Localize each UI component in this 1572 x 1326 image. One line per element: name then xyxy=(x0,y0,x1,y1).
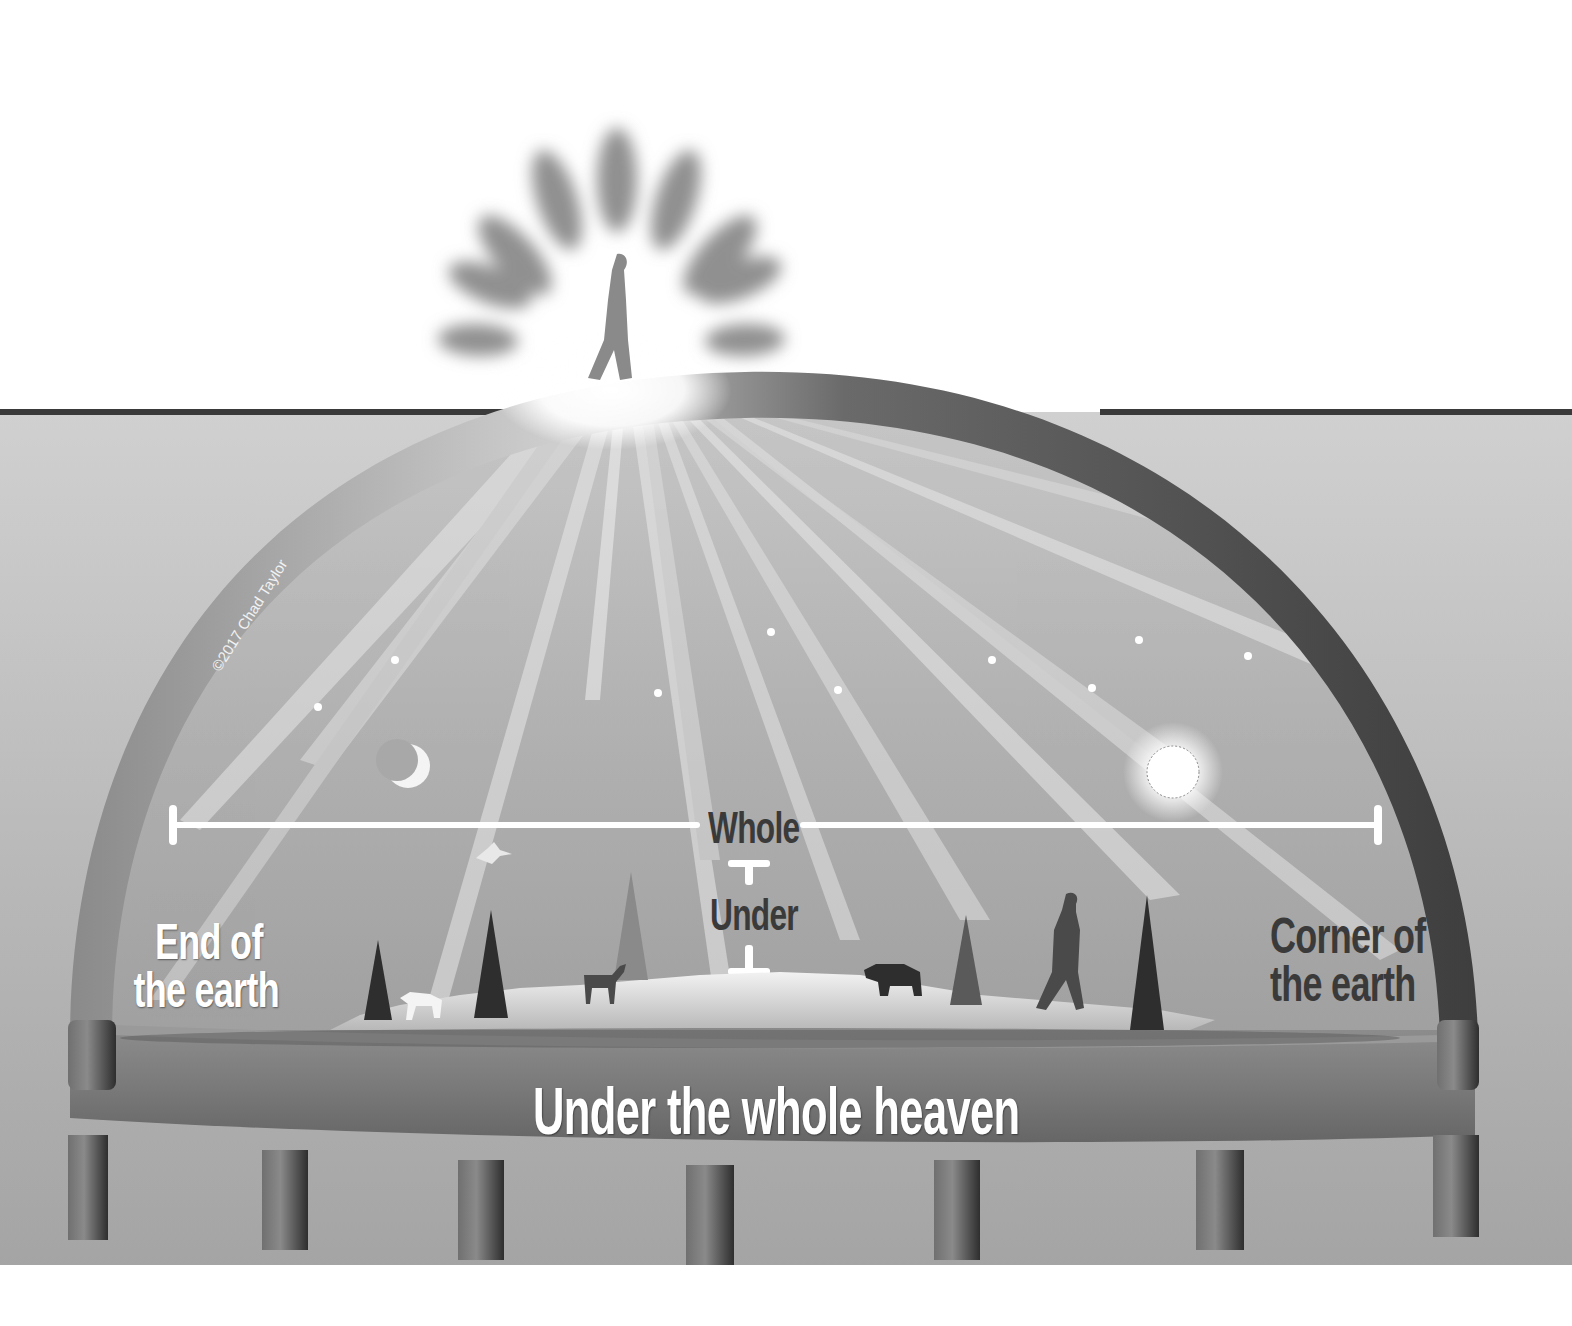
end-of-earth-line-1: End of xyxy=(155,918,279,966)
end-of-earth-line-2: the earth xyxy=(133,966,279,1014)
sun-icon xyxy=(1123,722,1223,822)
under-label: Under xyxy=(710,893,798,937)
flat-earth-diagram: Whole Under End of the earth Corner of t… xyxy=(0,0,1572,1326)
under-whole-heaven-label: Under the whole heaven xyxy=(533,1078,1020,1144)
pillar-cap-left xyxy=(68,1020,116,1090)
corner-of-earth-label: Corner of the earth xyxy=(1270,912,1426,1008)
end-of-earth-label: End of the earth xyxy=(155,918,279,1014)
pillar-cap-right xyxy=(1437,1020,1479,1090)
whole-label: Whole xyxy=(708,806,799,850)
corner-of-earth-line-1: Corner of xyxy=(1270,912,1426,960)
corner-of-earth-line-2: the earth xyxy=(1270,960,1426,1008)
horizon-line-left xyxy=(0,409,560,415)
horizon-line-right xyxy=(1100,409,1572,415)
